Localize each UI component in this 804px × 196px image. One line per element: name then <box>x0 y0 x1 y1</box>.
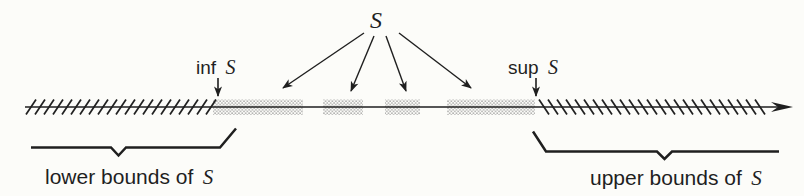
lower-bounds-label: lower bounds of S <box>45 165 214 189</box>
set-s-arrow <box>283 33 364 88</box>
upper-bounds-label: upper bounds of S <box>590 166 762 190</box>
set-s-arrow <box>399 33 471 88</box>
inf-s-label: inf S <box>196 56 236 78</box>
infimum-supremum-diagram: S inf S sup S lower bounds of S upper bo… <box>0 0 804 196</box>
lower-bounds-brace <box>31 129 236 156</box>
set-s-pointer-arrows <box>283 33 471 91</box>
upper-bounds-brace <box>533 132 779 160</box>
set-s-arrow <box>351 36 374 91</box>
diagram-canvas: S inf S sup S lower bounds of S upper bo… <box>0 0 804 196</box>
set-s-arrow <box>386 36 406 91</box>
sup-s-label: sup S <box>508 56 558 78</box>
set-s-label: S <box>370 7 382 33</box>
